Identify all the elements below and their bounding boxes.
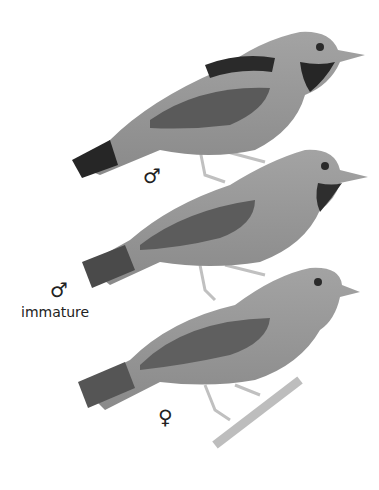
immature-caption: immature <box>21 304 89 320</box>
birds-illustration <box>0 0 379 490</box>
bird-female <box>78 268 360 445</box>
bird-eye <box>321 162 329 170</box>
female-symbol: ♀ <box>158 407 173 427</box>
bird-eye <box>314 278 322 286</box>
bird-tail-dark <box>72 140 118 178</box>
immature-male-symbol: ♂ <box>50 280 68 300</box>
bird-eye <box>316 43 324 51</box>
male-symbol: ♂ <box>143 166 161 186</box>
illustration-plate: ♂ ♂ immature ♀ <box>0 0 379 490</box>
branch <box>215 380 300 445</box>
bird-throat-dark <box>316 183 342 212</box>
